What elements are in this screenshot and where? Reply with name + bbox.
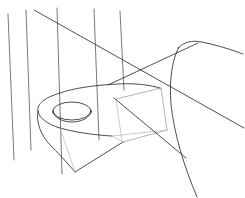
figure-background: [0, 0, 245, 198]
wireframe-figure: [0, 0, 245, 198]
wireframe-canvas: [0, 0, 245, 198]
